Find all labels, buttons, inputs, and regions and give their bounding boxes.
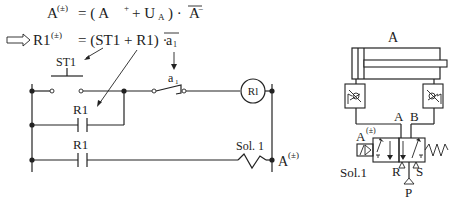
port-s-label: S xyxy=(416,164,423,179)
ladder-diagram: ST1 a 1 Rl xyxy=(29,55,299,172)
port-r-label: R xyxy=(392,164,401,179)
supply-p-icon xyxy=(404,178,414,184)
equation-1: A (±) = ( A + + U A ) · A − xyxy=(47,3,203,22)
contact1-label: R1 xyxy=(73,102,88,117)
pneumatic-circuit: A A B xyxy=(340,30,448,200)
rung-2: R1 xyxy=(29,91,124,132)
pushbutton-label: ST1 xyxy=(56,55,76,69)
pushbutton-st1[interactable]: ST1 xyxy=(50,55,83,93)
eq1-rhs: = ( A xyxy=(78,5,109,22)
rung-1: ST1 a 1 Rl xyxy=(29,55,274,103)
eq2-bar-sub: 1 xyxy=(173,40,177,49)
contact-r1-output[interactable]: R1 xyxy=(73,137,88,167)
equation-2: R1 (±) = (ST1 + R1) · a 1 xyxy=(7,30,179,49)
contact-r1-hold[interactable]: R1 xyxy=(73,102,88,132)
eq2-rhs: = (ST1 + R1) · xyxy=(78,32,167,49)
coil-label: Rl xyxy=(248,85,258,97)
annotation-arrows xyxy=(84,48,177,107)
implies-arrow-icon xyxy=(7,34,30,46)
eq1-sub: A xyxy=(158,12,165,22)
diagram-canvas: A (±) = ( A + + U A ) · A − R1 (±) = (ST… xyxy=(0,0,451,200)
eq1-plus-sup: + xyxy=(124,3,129,13)
port-b-label: B xyxy=(410,109,419,124)
limit-switch-sub: 1 xyxy=(175,78,179,86)
eq1-lhs-sup: (±) xyxy=(57,3,68,13)
limit-switch-label: a xyxy=(168,71,174,85)
valve-signal-label: A xyxy=(356,129,366,144)
valve-signal-sup: (±) xyxy=(366,126,376,135)
relay-coil-r1[interactable]: Rl xyxy=(241,79,265,103)
flow-control-left[interactable] xyxy=(345,79,365,124)
rung-3: R1 Sol. 1 A (±) xyxy=(29,137,299,169)
cylinder-a[interactable]: A xyxy=(352,30,447,79)
eq1-close: ) · xyxy=(168,5,182,22)
solenoid-sol1[interactable]: Sol. 1 xyxy=(236,139,266,168)
flow-control-right[interactable] xyxy=(423,79,443,124)
output-sup: (±) xyxy=(288,150,299,160)
valve-solenoid-label: Sol.1 xyxy=(340,165,367,180)
directional-valve[interactable] xyxy=(357,138,448,162)
port-a-label: A xyxy=(394,109,404,124)
contact2-label: R1 xyxy=(73,137,88,152)
eq1-bar-sup: − xyxy=(198,4,203,14)
limit-switch-a1[interactable]: a 1 xyxy=(152,71,186,94)
eq2-lhs: R1 xyxy=(33,32,51,48)
cylinder-label: A xyxy=(388,30,399,45)
eq2-lhs-sup: (±) xyxy=(51,30,62,40)
eq2-bar-term: a xyxy=(166,33,173,48)
eq1-rest: + U xyxy=(132,5,155,21)
solenoid-label: Sol. 1 xyxy=(236,139,264,153)
port-p-label: P xyxy=(405,185,412,200)
